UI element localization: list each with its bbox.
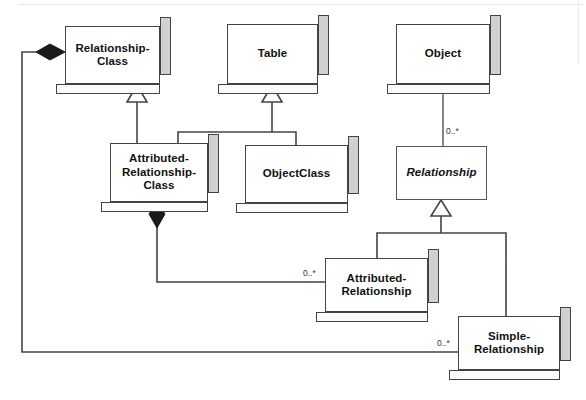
uml-class-diagram: 0..* 0..* 0..* Relationship- Class Table…: [0, 0, 586, 400]
box-bottom-panel: [316, 312, 428, 322]
box-face: Simple- Relationship: [458, 316, 560, 370]
multiplicity-attributed-relationship: 0..*: [303, 268, 316, 278]
box-face: Attributed- Relationship: [325, 258, 428, 312]
class-name-object: Object: [421, 47, 465, 61]
box-bottom-panel: [101, 202, 208, 212]
class-name-table: Table: [254, 47, 292, 61]
edge-composition-attributed-relationship: [157, 224, 325, 282]
class-box-table[interactable]: Table: [227, 24, 318, 84]
box-bottom-panel: [218, 84, 318, 94]
box-bottom-panel: [387, 84, 490, 94]
class-box-attributed-relationship[interactable]: Attributed- Relationship: [325, 258, 428, 312]
box-face: Relationship- Class: [65, 26, 160, 84]
box-side-panel: [160, 17, 171, 75]
class-name-simple-relationship: Simple- Relationship: [470, 330, 548, 357]
class-name-attributed-relationship: Attributed- Relationship: [337, 272, 415, 299]
box-side-panel: [348, 136, 359, 194]
class-box-attributed-relationship-class[interactable]: Attributed- Relationship- Class: [110, 143, 208, 202]
multiplicity-simple-relationship: 0..*: [437, 338, 450, 348]
box-face: Attributed- Relationship- Class: [110, 143, 208, 202]
class-name-object-class: ObjectClass: [259, 167, 335, 181]
class-name-attributed-relationship-class: Attributed- Relationship- Class: [118, 152, 200, 193]
box-face: Table: [227, 24, 318, 84]
class-box-relationship-class[interactable]: Relationship- Class: [65, 26, 160, 84]
class-box-object-class[interactable]: ObjectClass: [245, 145, 348, 203]
box-face: Object: [396, 24, 490, 84]
composition-diamond-relationship-class: [36, 44, 65, 60]
box-side-panel: [560, 307, 571, 361]
multiplicity-object-relationship: 0..*: [446, 126, 459, 136]
box-face: Relationship: [396, 146, 487, 200]
box-side-panel: [208, 134, 219, 193]
class-name-relationship-class: Relationship- Class: [71, 42, 153, 69]
class-box-simple-relationship[interactable]: Simple- Relationship: [458, 316, 560, 370]
box-side-panel: [490, 15, 501, 75]
box-face: ObjectClass: [245, 145, 348, 203]
box-side-panel: [428, 249, 439, 303]
box-bottom-panel: [236, 203, 348, 213]
class-box-relationship[interactable]: Relationship: [396, 146, 487, 200]
box-bottom-panel: [449, 370, 560, 380]
class-name-relationship: Relationship: [402, 166, 480, 180]
class-box-object[interactable]: Object: [396, 24, 490, 84]
generalization-triangle-relationship: [431, 200, 451, 216]
box-side-panel: [318, 15, 329, 75]
box-bottom-panel: [56, 84, 160, 94]
